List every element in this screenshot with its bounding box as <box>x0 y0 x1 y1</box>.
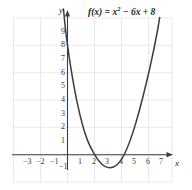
x-tick-label-3: 3 <box>105 158 109 166</box>
y-tick-label-7: 7 <box>61 55 65 63</box>
y-tick-label-6: 6 <box>61 69 65 77</box>
y-tick-label-4: 4 <box>61 96 65 104</box>
graph-figure: f(x) = x2 − 6x + 8 y x −3 −2 −1 1 2 3 4 … <box>0 0 192 190</box>
equation-label: f(x) = x2 − 6x + 8 <box>88 5 155 17</box>
equation-equals: = <box>105 7 110 17</box>
x-tick-label-2: 2 <box>92 158 96 166</box>
equation-lhs: f(x) <box>88 7 102 17</box>
y-tick-label-1: 1 <box>61 137 65 145</box>
equation-term2: − 6x <box>123 7 141 17</box>
x-tick-label--2: −2 <box>36 158 45 166</box>
y-axis-arrowhead <box>65 10 70 17</box>
x-tick-label--3: −3 <box>23 158 32 166</box>
y-tick-label-8: 8 <box>61 41 65 49</box>
parabola-curve <box>64 9 160 168</box>
x-tick-label-4: 4 <box>119 158 123 166</box>
y-tick-label-5: 5 <box>61 82 65 90</box>
x-tick-label-1: 1 <box>78 158 82 166</box>
x-tick-label-7: 7 <box>159 158 163 166</box>
y-tick-label-9: 9 <box>61 28 65 36</box>
equation-term3: + 8 <box>143 7 156 17</box>
y-tick-label-3: 3 <box>61 110 65 118</box>
x-tick-label-5: 5 <box>132 158 136 166</box>
y-tick-label--1: −1 <box>59 163 68 171</box>
y-axis-name: y <box>59 6 63 15</box>
x-tick-label-6: 6 <box>146 158 150 166</box>
y-tick-label-2: 2 <box>61 123 65 131</box>
equation-term1-exponent: 2 <box>117 5 120 12</box>
x-tick-label--1: −1 <box>50 158 59 166</box>
x-axis-name: x <box>175 159 179 168</box>
